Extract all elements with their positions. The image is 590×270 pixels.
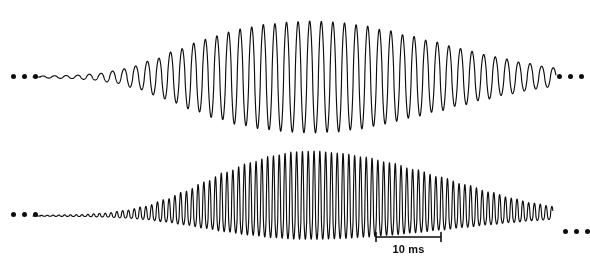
ellipsis-dot <box>557 74 562 79</box>
ellipsis-dot <box>22 74 27 79</box>
top-right-ellipsis <box>557 74 584 79</box>
top-left-ellipsis <box>11 74 38 79</box>
bottom-right-ellipsis <box>563 229 590 234</box>
waveform-figure: 10 ms <box>0 0 590 270</box>
ellipsis-dot <box>585 229 590 234</box>
ellipsis-dot <box>11 74 16 79</box>
ellipsis-dot <box>22 212 27 217</box>
ellipsis-dot <box>11 212 16 217</box>
ellipsis-dot <box>33 74 38 79</box>
ellipsis-dot <box>33 212 38 217</box>
bottom-left-ellipsis <box>11 212 38 217</box>
scalebar-label: 10 ms <box>366 243 451 256</box>
waveform-plot-canvas <box>0 0 590 270</box>
ellipsis-dot <box>568 74 573 79</box>
ellipsis-dot <box>563 229 568 234</box>
ellipsis-dot <box>574 229 579 234</box>
ellipsis-dot <box>579 74 584 79</box>
